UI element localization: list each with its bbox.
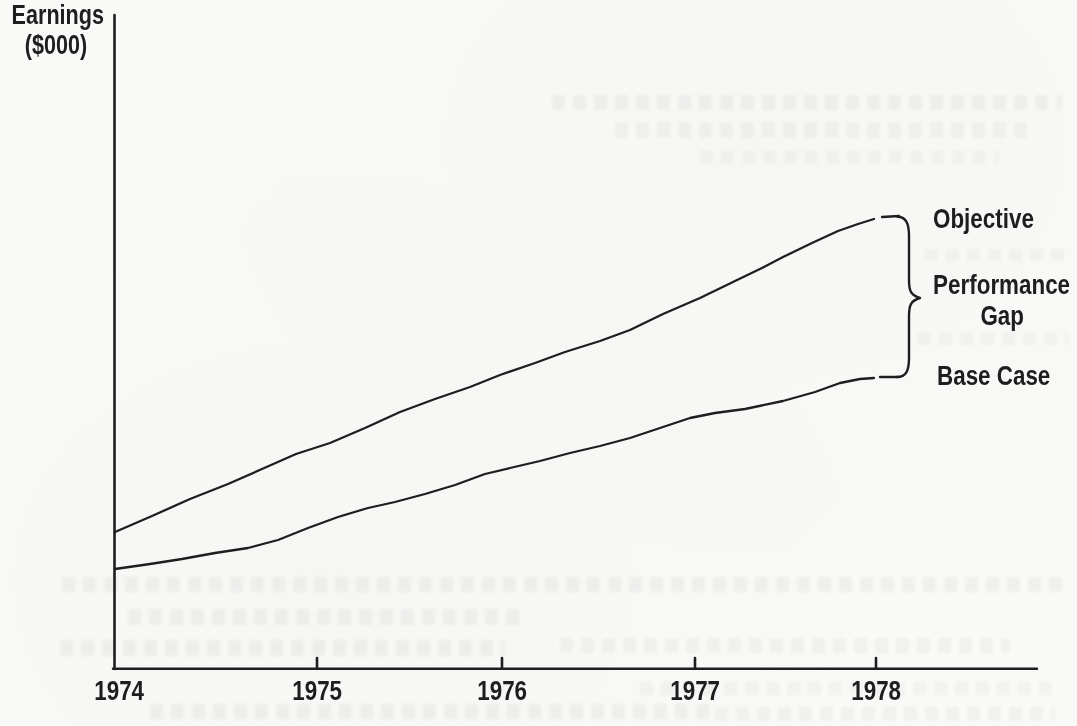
objective-line bbox=[115, 219, 874, 532]
objective-label: Objective bbox=[933, 205, 1059, 233]
x-tick-label-1977: 1977 bbox=[650, 677, 740, 705]
x-tick-label-1977-text: 1977 bbox=[670, 677, 720, 705]
x-tick-label-1975: 1975 bbox=[272, 677, 362, 705]
y-axis-title: Earnings ($000) bbox=[0, 0, 112, 60]
x-tick-label-1975-text: 1975 bbox=[292, 677, 342, 705]
base-case-label: Base Case bbox=[937, 362, 1077, 390]
y-axis-title-line1: Earnings bbox=[12, 0, 104, 30]
x-tick-label-1976: 1976 bbox=[457, 677, 547, 705]
y-axis-title-line2: ($000) bbox=[25, 30, 87, 60]
performance-gap-label-line1: Performance bbox=[934, 269, 1071, 300]
base-case-label-text: Base Case bbox=[937, 362, 1050, 390]
performance-gap-label: Performance Gap bbox=[902, 269, 1077, 331]
scanned-book-page: Earnings ($000) Objective Performance Ga… bbox=[0, 0, 1077, 726]
x-tick-label-1974: 1974 bbox=[74, 677, 164, 705]
performance-gap-label-line2: Gap bbox=[980, 300, 1024, 331]
x-tick-label-1978: 1978 bbox=[831, 677, 921, 705]
base-case-line bbox=[115, 378, 874, 569]
x-tick-label-1974-text: 1974 bbox=[94, 677, 144, 705]
x-tick-label-1978-text: 1978 bbox=[851, 677, 901, 705]
x-tick-label-1976-text: 1976 bbox=[477, 677, 527, 705]
earnings-projection-chart bbox=[0, 0, 1077, 726]
objective-label-text: Objective bbox=[933, 205, 1034, 233]
